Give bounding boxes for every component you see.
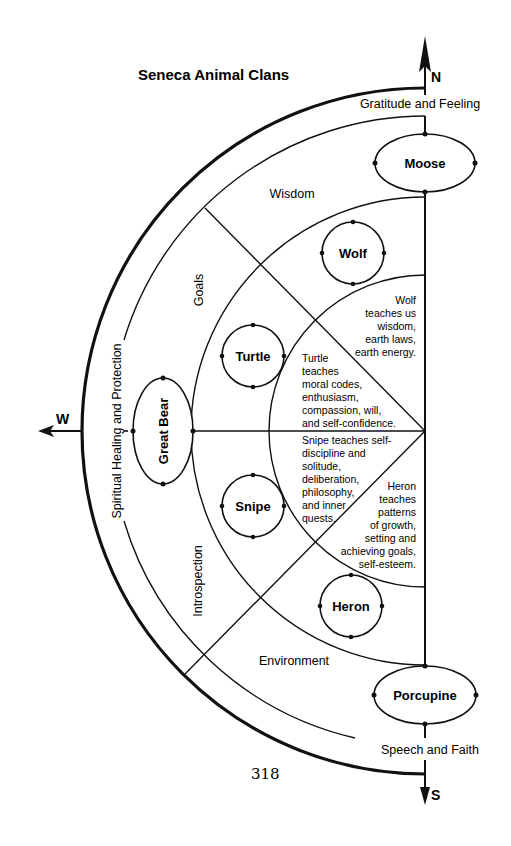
svg-text:earth laws,: earth laws, bbox=[365, 333, 416, 345]
theme-environment: Environment bbox=[259, 654, 330, 668]
svg-text:Turtle: Turtle bbox=[302, 352, 329, 364]
heron-label: Heron bbox=[332, 599, 370, 614]
svg-text:deliberation,: deliberation, bbox=[302, 473, 359, 485]
page-number: 318 bbox=[251, 765, 280, 783]
svg-text:Snipe teaches self-: Snipe teaches self- bbox=[302, 434, 392, 446]
band-speech-faith: Speech and Faith bbox=[381, 743, 479, 757]
svg-text:philosophy,: philosophy, bbox=[302, 486, 354, 498]
svg-text:quests.: quests. bbox=[302, 512, 336, 524]
moose-label: Moose bbox=[404, 156, 445, 171]
svg-text:moral codes,: moral codes, bbox=[302, 378, 362, 390]
south-label: S bbox=[431, 787, 440, 803]
theme-goals: Goals bbox=[192, 274, 206, 307]
seneca-clans-diagram: Seneca Animal Clans N S W Gratitude and … bbox=[0, 0, 511, 846]
wolf-label: Wolf bbox=[339, 246, 368, 261]
turtle-teaching: Turtle teaches moral codes, enthusiasm, … bbox=[302, 352, 396, 429]
svg-text:wisdom,: wisdom, bbox=[376, 320, 416, 332]
wolf-teaching: Wolf teaches us wisdom, earth laws, eart… bbox=[355, 294, 416, 358]
great-bear-label: Great Bear bbox=[156, 398, 171, 464]
svg-text:solitude,: solitude, bbox=[302, 460, 341, 472]
theme-wisdom: Wisdom bbox=[269, 187, 314, 201]
svg-text:teaches us: teaches us bbox=[365, 307, 416, 319]
turtle-label: Turtle bbox=[235, 349, 270, 364]
band-spiritual-healing: Spiritual Healing and Protection bbox=[110, 343, 124, 518]
svg-text:patterns: patterns bbox=[378, 506, 416, 518]
svg-text:and inner: and inner bbox=[302, 499, 346, 511]
snipe-label: Snipe bbox=[235, 499, 270, 514]
second-arc-lower bbox=[124, 521, 355, 738]
svg-text:enthusiasm,: enthusiasm, bbox=[302, 391, 359, 403]
svg-text:achieving goals,: achieving goals, bbox=[341, 545, 416, 557]
north-label: N bbox=[431, 69, 441, 85]
svg-text:discipline and: discipline and bbox=[302, 447, 366, 459]
svg-text:self-esteem.: self-esteem. bbox=[359, 558, 416, 570]
diagram-title: Seneca Animal Clans bbox=[138, 66, 289, 83]
svg-text:Heron: Heron bbox=[387, 480, 416, 492]
svg-text:earth energy.: earth energy. bbox=[355, 346, 416, 358]
svg-text:compassion, will,: compassion, will, bbox=[302, 404, 381, 416]
theme-introspection: Introspection bbox=[191, 545, 205, 617]
svg-text:and self-confidence.: and self-confidence. bbox=[302, 417, 396, 429]
south-arrow-icon bbox=[420, 787, 430, 805]
porcupine-label: Porcupine bbox=[393, 688, 457, 703]
svg-text:Wolf: Wolf bbox=[395, 294, 416, 306]
svg-text:setting and: setting and bbox=[365, 532, 417, 544]
west-label: W bbox=[56, 411, 70, 427]
svg-text:teaches: teaches bbox=[302, 365, 339, 377]
svg-text:teaches: teaches bbox=[379, 493, 416, 505]
svg-text:of growth,: of growth, bbox=[370, 519, 416, 531]
band-gratitude-feeling: Gratitude and Feeling bbox=[360, 97, 480, 111]
